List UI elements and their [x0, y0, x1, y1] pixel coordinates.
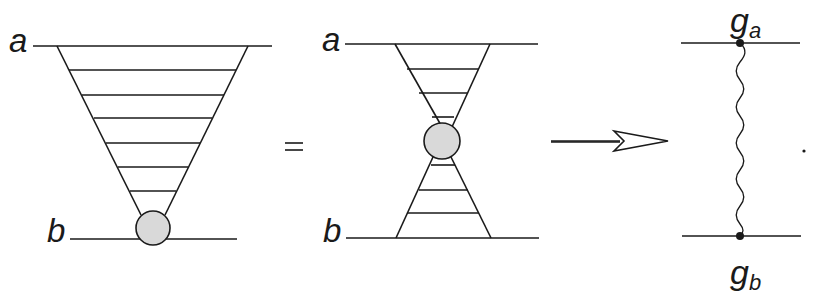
g-b-subscript: b: [749, 270, 761, 295]
blob-middle: [424, 123, 460, 159]
diagram-canvas: [0, 0, 814, 301]
label-a-left: a: [9, 24, 27, 57]
label-a-middle: a: [322, 23, 340, 56]
label-b-middle: b: [323, 214, 341, 247]
period-dot: [802, 149, 805, 152]
g-a-base: g: [730, 1, 749, 39]
cone-left-edge: [57, 46, 141, 215]
vertex-dot-bottom: [736, 232, 744, 240]
arrow-icon: [551, 131, 668, 151]
upper-cone-right: [452, 44, 490, 127]
equals-sign: [285, 143, 303, 150]
wavy-propagator: [736, 43, 745, 236]
exchange-diagram: [681, 43, 801, 236]
cone-right-edge: [165, 46, 248, 215]
left-ladder-diagram: [33, 46, 272, 245]
lower-cone-right: [451, 157, 491, 238]
g-a-subscript: a: [749, 18, 761, 43]
lower-cone-left: [396, 157, 433, 238]
g-b-base: g: [730, 253, 749, 291]
label-g-a: ga: [730, 3, 761, 42]
blob-left: [136, 211, 170, 245]
upper-cone-left: [395, 44, 442, 127]
label-g-b: gb: [730, 255, 761, 294]
middle-ladder-diagram: [345, 44, 539, 238]
label-b-left: b: [47, 214, 65, 247]
